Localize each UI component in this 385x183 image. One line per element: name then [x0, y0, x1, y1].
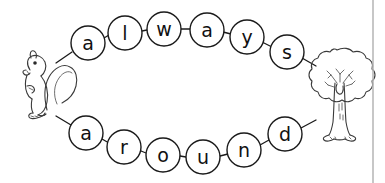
- letter-bead[interactable]: y: [230, 20, 264, 54]
- letter-label: s: [282, 41, 292, 63]
- top-word-always: a l w a y s: [71, 12, 304, 69]
- letter-bead[interactable]: n: [227, 133, 261, 167]
- letter-label: a: [201, 19, 213, 41]
- bottom-word-around: a r o u n d: [69, 116, 302, 174]
- letter-bead[interactable]: s: [270, 35, 304, 69]
- link-d-to-tree: [301, 120, 316, 128]
- letter-label: a: [82, 32, 94, 54]
- letter-label: d: [279, 123, 291, 145]
- link-o-u: [180, 156, 186, 157]
- letter-label: w: [156, 18, 172, 40]
- letter-label: o: [157, 144, 169, 166]
- letter-bead[interactable]: o: [146, 138, 180, 172]
- letter-bead[interactable]: a: [71, 26, 105, 60]
- letter-label: y: [241, 26, 252, 48]
- link-squirrel-to-a: [56, 52, 72, 63]
- link-squirrel-to-a-bottom: [56, 116, 71, 125]
- letter-bead[interactable]: w: [147, 12, 181, 46]
- letter-bead[interactable]: a: [190, 13, 224, 47]
- link-l-w: [142, 30, 147, 31]
- link-n-d: [260, 140, 269, 145]
- tree-icon: [309, 48, 375, 141]
- worksheet-canvas: a l w a y s: [0, 0, 385, 183]
- worksheet-page: a l w a y s: [0, 0, 385, 183]
- squirrel-eye: [33, 61, 37, 65]
- letter-bead[interactable]: d: [268, 117, 302, 151]
- letter-label: a: [80, 122, 92, 144]
- letter-label: n: [238, 139, 250, 161]
- letter-bead[interactable]: a: [69, 116, 103, 150]
- link-s-to-tree: [302, 58, 316, 66]
- letter-bead[interactable]: r: [107, 130, 141, 164]
- letter-bead[interactable]: l: [108, 16, 142, 50]
- letter-label: u: [197, 146, 209, 168]
- link-r-o: [141, 151, 146, 153]
- letter-label: l: [122, 22, 127, 44]
- letter-bead[interactable]: u: [186, 140, 220, 174]
- squirrel-icon: [23, 51, 77, 119]
- letter-label: r: [120, 136, 128, 158]
- link-u-n: [220, 154, 228, 156]
